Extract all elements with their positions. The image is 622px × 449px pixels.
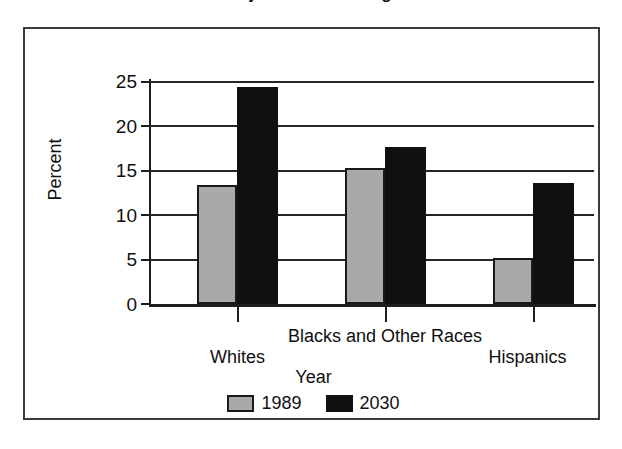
x-category-label-blacks-other-races: Blacks and Other Races xyxy=(240,326,530,347)
bar-blacks-other-races-2030 xyxy=(385,147,426,304)
legend-swatch-2030-icon xyxy=(326,395,353,412)
legend-swatch-1989-icon xyxy=(227,395,254,412)
x-axis-title: Year xyxy=(25,367,602,388)
plot-area xyxy=(149,81,594,304)
y-tick-label-0: 0 xyxy=(126,295,137,314)
bar-hispanics-2030 xyxy=(533,183,574,304)
y-tick-label-20: 20 xyxy=(116,117,137,136)
legend-label-1989: 1989 xyxy=(261,393,301,414)
x-tick-mark-whites xyxy=(237,305,239,322)
y-tick-label-25: 25 xyxy=(116,72,137,91)
chart-legend: 1989 2030 xyxy=(25,393,602,414)
x-axis-line xyxy=(149,304,596,307)
y-tick-label-15: 15 xyxy=(116,161,137,180)
x-category-label-whites: Whites xyxy=(150,347,325,368)
y-axis-tick-labels: 25 20 15 10 5 0 xyxy=(85,29,137,422)
figure-frame: 25 20 15 10 5 0 Percent Whites xyxy=(23,27,600,420)
x-category-label-hispanics: Hispanics xyxy=(440,347,615,368)
x-tick-mark-hispanics xyxy=(533,305,535,322)
legend-label-2030: 2030 xyxy=(360,393,400,414)
x-tick-mark-blacks-other-races xyxy=(385,305,387,322)
bar-whites-2030 xyxy=(237,87,278,304)
y-axis-title: Percent xyxy=(45,120,66,220)
y-tick-label-5: 5 xyxy=(126,250,137,269)
gridline-25 xyxy=(149,81,594,83)
gridline-20 xyxy=(149,125,594,127)
chart-title: Projected Percentage xyxy=(0,0,622,2)
bar-blacks-other-races-1989 xyxy=(345,168,385,304)
legend-entry-1989: 1989 xyxy=(227,393,301,414)
y-tick-label-10: 10 xyxy=(116,206,137,225)
bar-whites-1989 xyxy=(197,185,237,304)
bar-hispanics-1989 xyxy=(493,258,533,304)
legend-entry-2030: 2030 xyxy=(326,393,400,414)
